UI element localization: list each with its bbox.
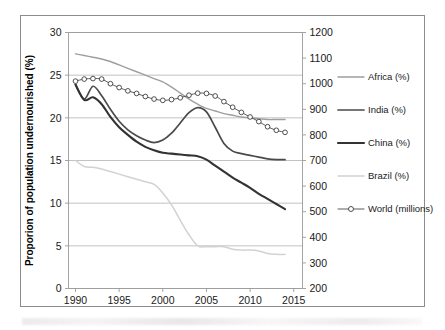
secondary-y-tick-label: 800 [310, 129, 328, 141]
series-marker [152, 97, 157, 102]
y-axis-tick-labels: 051015202530 [50, 26, 62, 294]
series-marker [256, 119, 261, 124]
series-marker [108, 81, 113, 86]
legend-label: World (millions) [368, 203, 433, 214]
secondary-y-tick-label: 1000 [310, 77, 334, 89]
chart-figure: 051015202530 200300400500600700800900100… [0, 0, 445, 330]
gridlines [69, 33, 303, 289]
secondary-y-tick-label: 200 [310, 282, 328, 294]
series-marker [248, 115, 253, 120]
series-marker [230, 105, 235, 110]
secondary-y-tick-label: 600 [310, 180, 328, 192]
series-marker [265, 124, 270, 129]
y-tick-label: 30 [50, 26, 62, 38]
y-tick-label: 20 [50, 112, 62, 124]
secondary-y-tick-label: 700 [310, 154, 328, 166]
series-marker [283, 130, 288, 135]
series-marker [126, 89, 131, 94]
legend-label: Brazil (%) [368, 170, 409, 181]
secondary-y-tick-label: 1100 [310, 52, 333, 64]
x-axis-tick-labels: 199019952000200520102015 [64, 294, 306, 306]
x-tick-label: 2000 [151, 294, 175, 306]
series-marker [239, 110, 244, 115]
series-marker [82, 77, 87, 82]
series-marker [117, 85, 122, 90]
secondary-y-tick-label: 500 [310, 205, 328, 217]
data-markers [73, 76, 287, 134]
series-marker [73, 79, 78, 84]
data-series [75, 54, 285, 255]
secondary-y-tick-label: 900 [310, 103, 328, 115]
series-marker [178, 95, 183, 100]
secondary-y-tick-label: 400 [310, 231, 328, 243]
series-marker [99, 77, 104, 82]
x-tick-label: 2005 [195, 294, 219, 306]
y-tick-label: 15 [50, 154, 62, 166]
series-marker [91, 76, 96, 81]
x-tick-label: 1995 [107, 294, 131, 306]
secondary-y-axis-tick-labels: 200300400500600700800900100011001200 [310, 26, 334, 294]
legend-label: India (%) [368, 104, 406, 115]
legend-label: China (%) [368, 137, 410, 148]
series-marker [222, 99, 227, 104]
tick-marks [65, 33, 306, 293]
secondary-y-tick-label: 300 [310, 257, 328, 269]
chart-legend: Africa (%)India (%)China (%)Brazil (%)Wo… [338, 71, 433, 214]
y-axis-title-text: Proporion of population undernourished (… [24, 55, 35, 266]
legend-label: Africa (%) [368, 71, 410, 82]
y-tick-label: 5 [56, 240, 62, 252]
y-tick-label: 0 [56, 282, 62, 294]
series-marker [187, 93, 192, 98]
secondary-y-tick-label: 1200 [310, 26, 334, 38]
x-tick-label: 1990 [64, 294, 88, 306]
series-marker [134, 91, 139, 96]
series-line [75, 161, 285, 255]
series-marker [213, 94, 218, 99]
y-axis-title: Proporion of population undernourished (… [24, 55, 35, 266]
x-tick-label: 2010 [238, 294, 262, 306]
y-tick-label: 10 [50, 197, 62, 209]
series-marker [204, 91, 209, 96]
series-line [75, 54, 285, 120]
series-marker [195, 91, 200, 96]
y-tick-label: 25 [50, 69, 62, 81]
page-edge-artifact [22, 318, 422, 325]
series-marker [160, 98, 165, 103]
series-marker [274, 128, 279, 133]
chart-canvas: 051015202530 200300400500600700800900100… [0, 0, 445, 330]
series-marker [169, 97, 174, 102]
legend-marker [349, 207, 354, 212]
series-marker [143, 94, 148, 99]
x-tick-label: 2015 [282, 294, 306, 306]
